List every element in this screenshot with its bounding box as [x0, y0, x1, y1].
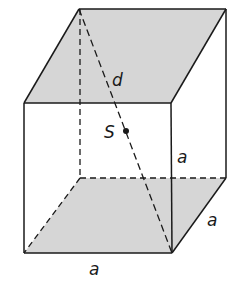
- label-diagonal-d: d: [112, 70, 123, 90]
- top-face: [24, 9, 226, 103]
- cuboid-diagram: d S a a a: [0, 0, 238, 282]
- label-height-a: a: [177, 147, 187, 167]
- label-center-s: S: [104, 122, 115, 142]
- edge-front-right-vertical: [171, 103, 172, 253]
- label-width-a: a: [89, 259, 99, 279]
- label-depth-a: a: [207, 210, 217, 230]
- center-point-s: [123, 128, 129, 134]
- bottom-face: [24, 178, 226, 253]
